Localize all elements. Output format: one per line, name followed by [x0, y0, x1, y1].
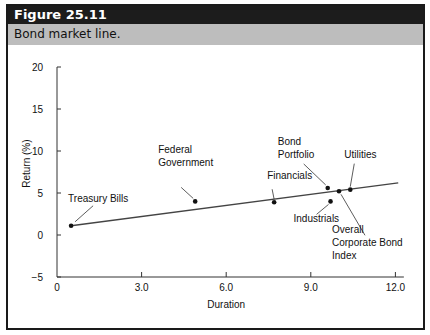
label-federal-government: Government: [158, 157, 213, 168]
label-overall-corporate-bond-index: Corporate Bond: [332, 237, 403, 248]
leader-treasury-bills: [75, 206, 93, 222]
point-industrials: [328, 199, 333, 204]
point-overall-corporate-bond-index: [337, 189, 342, 194]
leader-utilities: [350, 164, 354, 187]
label-overall-corporate-bond-index: Index: [332, 250, 356, 261]
point-labels: Treasury BillsFederalGovernmentFinancial…: [68, 136, 403, 261]
leader-financials: [272, 189, 274, 199]
point-treasury-bills: [69, 223, 74, 228]
y-tick-label: 20: [32, 62, 44, 73]
y-tick-label: 15: [32, 104, 44, 115]
label-federal-government: Federal: [158, 144, 192, 155]
y-tick-label: −5: [32, 272, 44, 283]
label-bond-portfolio: Portfolio: [278, 149, 315, 160]
label-treasury-bills: Treasury Bills: [68, 193, 128, 204]
x-tick-label: 0: [54, 282, 60, 293]
label-overall-corporate-bond-index: Overall: [332, 224, 364, 235]
point-federal-government: [193, 199, 198, 204]
bond-market-line-chart: −50510152003.06.09.012.0 Treasury BillsF…: [0, 0, 430, 335]
y-tick-label: 5: [37, 188, 43, 199]
x-tick-label: 12.0: [386, 282, 406, 293]
x-axis-title: Duration: [207, 299, 245, 310]
series: [69, 183, 398, 228]
label-financials: Financials: [267, 170, 312, 181]
x-tick-label: 3.0: [135, 282, 149, 293]
y-tick-label: 10: [32, 146, 44, 157]
label-bond-portfolio: Bond: [278, 136, 301, 147]
x-tick-label: 9.0: [304, 282, 318, 293]
label-industrials: Industrials: [294, 213, 340, 224]
y-axis-title: Return (%): [21, 139, 32, 187]
y-tick-label: 0: [37, 230, 43, 241]
point-bond-portfolio: [325, 186, 330, 191]
label-utilities: Utilities: [344, 149, 376, 160]
point-utilities: [348, 187, 353, 192]
leader-federal-government: [181, 187, 193, 198]
point-financials: [272, 200, 277, 205]
x-tick-label: 6.0: [219, 282, 233, 293]
